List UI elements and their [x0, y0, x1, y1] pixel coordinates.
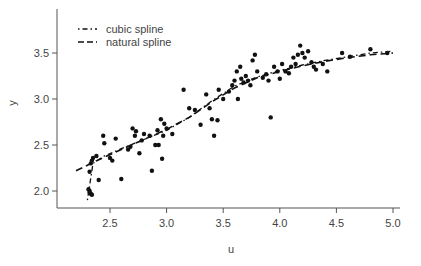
curve-natural-spline [76, 53, 393, 171]
data-point [212, 134, 216, 138]
data-point [235, 69, 239, 73]
data-point [110, 158, 114, 162]
data-point [90, 193, 94, 197]
data-points [86, 43, 389, 197]
data-point [269, 115, 273, 119]
data-point [293, 62, 297, 66]
curve-cubic-spline [87, 51, 393, 200]
data-point [207, 106, 211, 110]
data-point [230, 83, 234, 87]
x-tick-label: 4.0 [272, 217, 287, 229]
data-point [101, 134, 105, 138]
data-point [300, 51, 304, 55]
data-point [250, 58, 254, 62]
data-point [287, 71, 291, 75]
y-tick-label: 2.0 [34, 185, 49, 197]
data-point [97, 178, 101, 182]
data-point [306, 49, 310, 53]
y-tick-label: 3.5 [34, 47, 49, 59]
data-point [150, 169, 154, 173]
data-point [303, 55, 307, 59]
data-point [119, 177, 123, 181]
data-point [204, 92, 208, 96]
data-point [198, 123, 202, 127]
data-point [215, 118, 219, 122]
data-point [253, 53, 257, 57]
data-point [232, 78, 236, 82]
x-axis-label: u [228, 243, 234, 255]
data-point [102, 141, 106, 145]
data-point [181, 88, 185, 92]
x-tick-label: 3.0 [159, 217, 174, 229]
data-point [296, 53, 300, 57]
x-tick-label: 2.5 [102, 217, 117, 229]
data-point [162, 122, 166, 126]
data-point [255, 69, 259, 73]
data-point [278, 77, 282, 81]
data-point [325, 69, 329, 73]
data-point [314, 67, 318, 71]
data-point [87, 170, 91, 174]
data-point [114, 136, 118, 140]
y-tick-label: 2.5 [34, 139, 49, 151]
data-point [160, 157, 164, 161]
data-point [86, 187, 90, 191]
data-point [157, 143, 161, 147]
data-point [170, 132, 174, 136]
x-tick-label: 3.5 [216, 217, 231, 229]
data-point [248, 83, 252, 87]
data-point [161, 134, 165, 138]
data-point [272, 65, 276, 69]
data-point [210, 117, 214, 121]
data-point [142, 132, 146, 136]
data-point [221, 97, 225, 101]
y-axis-label: y [6, 100, 18, 106]
legend-label-natural-spline: natural spline [106, 36, 171, 48]
scatter-chart: 2.53.03.54.04.55.02.02.53.03.5 cubic spl… [0, 0, 421, 266]
data-point [238, 65, 242, 69]
data-point [244, 74, 248, 78]
legend-label-cubic-spline: cubic spline [106, 23, 163, 35]
data-point [217, 88, 221, 92]
legend: cubic spline natural spline [78, 23, 171, 48]
data-point [298, 43, 302, 47]
x-tick-label: 5.0 [385, 217, 400, 229]
data-point [236, 97, 240, 101]
data-point [280, 62, 284, 66]
data-point [134, 129, 138, 133]
data-point [266, 78, 270, 82]
data-point [187, 106, 191, 110]
data-point [94, 154, 98, 158]
data-point [130, 126, 134, 130]
y-tick-label: 3.0 [34, 93, 49, 105]
data-point [368, 47, 372, 51]
spline-curves [76, 51, 393, 200]
x-tick-label: 4.5 [329, 217, 344, 229]
data-point [291, 55, 295, 59]
data-point [137, 151, 141, 155]
data-point [133, 134, 137, 138]
data-point [155, 128, 159, 132]
data-point [159, 117, 163, 121]
data-point [340, 51, 344, 55]
